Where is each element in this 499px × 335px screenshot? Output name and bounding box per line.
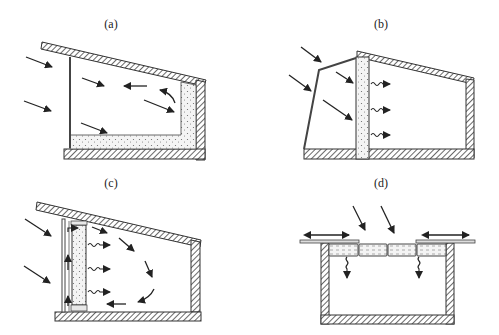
storage-wall [356, 57, 369, 159]
floor [55, 312, 201, 321]
sun-ray-arrow [24, 101, 51, 111]
radiant-heat-arrow [88, 291, 110, 294]
wall-cap-bottom [71, 305, 87, 311]
panel-d [300, 206, 475, 324]
radiant-heat-arrow [371, 134, 390, 137]
wall-left [321, 243, 329, 324]
thermal-mass [70, 82, 196, 149]
panel-b [289, 47, 474, 159]
wall-cap-top [71, 221, 87, 225]
sun-ray-arrow [24, 266, 50, 283]
glazing [62, 219, 65, 312]
wall-right [466, 79, 474, 158]
floor [64, 149, 205, 159]
roof [41, 42, 206, 86]
radiant-heat-arrow [346, 257, 348, 278]
convection-arrow [92, 227, 107, 233]
convection-arrow [145, 261, 152, 277]
panel-a [24, 42, 206, 160]
convection-arrow [160, 90, 175, 103]
floor [304, 149, 474, 159]
glazing [304, 58, 356, 149]
radiant-heat-arrow [418, 257, 420, 278]
radiant-heat-arrow [371, 109, 390, 112]
floor [321, 315, 454, 324]
radiant-heat-arrow [88, 244, 110, 247]
sun-ray-arrow [336, 72, 353, 83]
water-bag [329, 244, 358, 256]
trombe-wall [72, 225, 86, 305]
water-bag [359, 244, 387, 256]
sun-ray-arrow [353, 206, 365, 230]
movable-insulation-right [416, 240, 475, 243]
diagram-canvas [0, 0, 499, 335]
water-bag [417, 244, 446, 256]
sun-ray-arrow [25, 219, 51, 236]
sun-ray-arrow [289, 75, 311, 91]
sun-ray-arrow [323, 100, 352, 120]
sun-ray-arrow [26, 57, 52, 67]
water-bag [388, 244, 416, 256]
sun-ray-arrow [82, 78, 104, 86]
roof [36, 202, 201, 247]
sun-ray-arrow [381, 206, 394, 233]
radiant-heat-arrow [371, 83, 390, 86]
wall-right [191, 240, 200, 312]
radiant-heat-arrow [88, 268, 110, 271]
sun-ray-arrow [81, 123, 107, 133]
wall-right [196, 80, 205, 160]
wall-right [446, 243, 454, 324]
sun-ray-arrow [301, 47, 321, 62]
roof [357, 51, 474, 84]
convection-arrow [119, 238, 134, 251]
convection-arrow [138, 289, 154, 302]
panel-c [24, 202, 201, 321]
sun-ray-arrow [144, 100, 174, 112]
movable-insulation-left [300, 240, 359, 243]
